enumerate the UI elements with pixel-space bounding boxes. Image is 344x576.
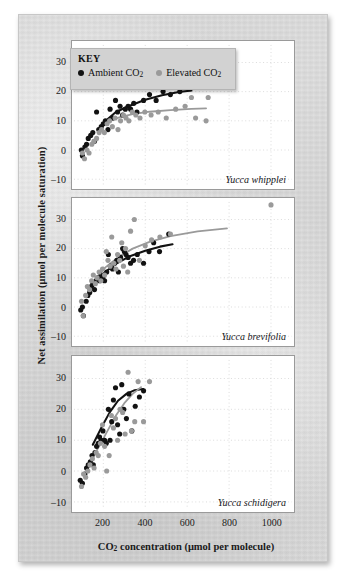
- legend-label-elevated: Elevated CO2: [166, 67, 221, 79]
- y-tick-label: 10: [36, 273, 66, 283]
- y-tick-label: 10: [36, 116, 66, 126]
- y-tick-label: 30: [36, 373, 66, 383]
- legend-entry-elevated: Elevated CO2: [156, 67, 221, 79]
- plot-panel-1: Yucca brevifolia: [71, 197, 295, 347]
- species-label-2: Yucca schidigera: [218, 497, 286, 508]
- y-tick-label: –10: [36, 175, 66, 185]
- x-tick-label: 400: [125, 517, 165, 528]
- x-tick-label: 1000: [252, 517, 292, 528]
- x-tick-label: 600: [167, 517, 207, 528]
- y-tick-label: 0: [36, 467, 66, 477]
- y-tick-label: 20: [36, 404, 66, 414]
- y-tick-label: 20: [36, 86, 66, 96]
- x-tick-label: 800: [210, 517, 250, 528]
- y-tick-label: 30: [36, 214, 66, 224]
- y-tick-label: 10: [36, 435, 66, 445]
- x-tick-label: 200: [83, 517, 123, 528]
- plot-panel-2: Yucca schidigera: [71, 355, 295, 513]
- elevated-marker-icon: [156, 70, 162, 76]
- legend-key-box: KEY Ambient CO2 Elevated CO2: [70, 48, 236, 90]
- plot-canvas-1: [72, 198, 294, 346]
- y-tick-label: –10: [36, 332, 66, 342]
- x-axis-title: CO2 concentration (μmol per molecule): [56, 541, 316, 553]
- y-tick-label: –10: [36, 498, 66, 508]
- legend-entries: Ambient CO2 Elevated CO2: [78, 67, 228, 79]
- species-label-1: Yucca brevifolia: [221, 331, 286, 342]
- y-tick-label: 0: [36, 146, 66, 156]
- plot-canvas-2: [72, 356, 294, 512]
- legend-title: KEY: [78, 53, 228, 64]
- ambient-marker-icon: [78, 70, 84, 76]
- legend-label-ambient: Ambient CO2: [88, 67, 143, 79]
- species-label-0: Yucca whipplei: [226, 174, 286, 185]
- y-tick-label: 20: [36, 243, 66, 253]
- legend-entry-ambient: Ambient CO2: [78, 67, 143, 79]
- y-tick-label: 30: [36, 57, 66, 67]
- figure-root: Net assimilation (μmol per molecule satu…: [0, 0, 344, 576]
- y-tick-label: 0: [36, 303, 66, 313]
